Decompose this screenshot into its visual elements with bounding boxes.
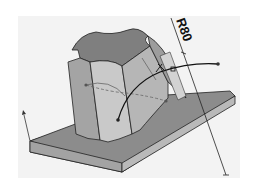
arc-end-point[interactable] [216,62,220,66]
curve-point-2[interactable] [164,99,167,102]
curve-point-1[interactable] [84,83,87,86]
cad-model-drawing: R80 [0,0,254,196]
cad-viewport[interactable]: R80 [0,0,254,196]
arc-start-point[interactable] [116,118,120,122]
